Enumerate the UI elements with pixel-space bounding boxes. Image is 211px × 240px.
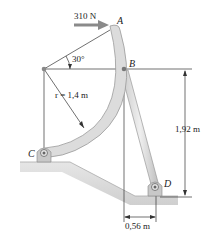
mechanism-diagram: 310 N A B C D 30° r = 1,4 m 1,92 m 0,56 … bbox=[0, 0, 211, 240]
dimension-vertical-label: 1,92 m bbox=[175, 124, 200, 134]
radius-label: r = 1,4 m bbox=[55, 90, 88, 100]
label-d: D bbox=[163, 178, 172, 189]
force-label: 310 N bbox=[74, 11, 97, 21]
link-bd bbox=[121, 70, 159, 188]
label-a: A bbox=[116, 15, 124, 26]
label-c: C bbox=[28, 148, 35, 159]
force-arrow bbox=[74, 20, 109, 30]
angle-label: 30° bbox=[72, 54, 85, 64]
support-d bbox=[148, 182, 162, 196]
pin-b bbox=[122, 67, 127, 72]
label-b: B bbox=[129, 58, 135, 69]
support-c bbox=[37, 148, 51, 162]
dimension-horizontal-label: 0,56 m bbox=[125, 221, 150, 231]
dimension-horizontal bbox=[124, 215, 156, 219]
pin-o bbox=[42, 67, 47, 72]
